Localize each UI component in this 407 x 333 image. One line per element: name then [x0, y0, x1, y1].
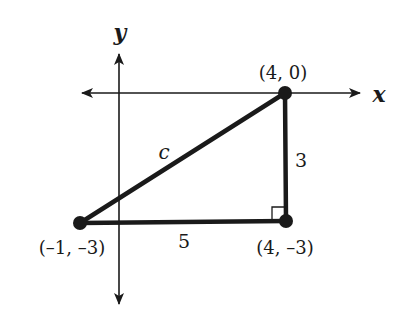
point-label-neg1-neg3: (–1, –3)	[39, 237, 105, 258]
point-neg1-neg3	[73, 216, 87, 230]
side-label-5: 5	[178, 230, 190, 252]
point-4-neg3	[279, 214, 293, 228]
side-label-3: 3	[295, 149, 307, 171]
x-axis-label: x	[371, 81, 386, 107]
hypotenuse-c	[80, 93, 285, 223]
point-4-0	[278, 86, 292, 100]
point-label-4-0: (4, 0)	[259, 62, 307, 83]
y-axis-label: y	[113, 19, 129, 45]
side-horizontal-5	[80, 221, 286, 223]
triangle-diagram: y x (4, 0) (4, –3) (–1, –3) c 3 5	[0, 0, 407, 333]
point-label-4-neg3: (4, –3)	[256, 237, 313, 258]
side-label-c: c	[158, 140, 169, 164]
side-vertical-3	[285, 93, 286, 221]
